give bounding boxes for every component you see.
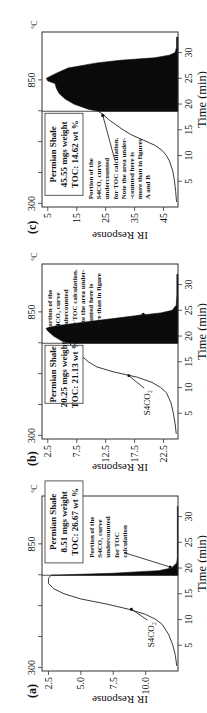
temp-tick-label: 300 xyxy=(26,196,37,211)
x-tick-label: 25 xyxy=(183,537,194,547)
x-tick-label: 25 xyxy=(183,73,194,83)
undercounted-area xyxy=(46,37,178,111)
annotation-line: for TOC calculation. xyxy=(71,269,79,331)
panel-label: (a) xyxy=(25,684,39,698)
temp-tick-label: 850 xyxy=(26,536,37,551)
arrow-head xyxy=(101,114,104,117)
x-tick-label: 20 xyxy=(183,331,194,341)
panel-b: 51015202530Time (min)22.517.512.57.52.5I… xyxy=(0,232,207,472)
y-tick-label: 25 xyxy=(100,213,111,223)
info-box-line: 45.55 mgs weight xyxy=(59,121,69,187)
annotation-line: undercounted xyxy=(62,289,70,331)
info-box-line: Permian Shale xyxy=(48,126,58,182)
y-tick-label: 7.5 xyxy=(108,677,119,690)
annotation-line: S4CO₂ curve xyxy=(54,292,62,330)
y-tick-label: 2.5 xyxy=(43,677,54,690)
x-axis-title: Time (min) xyxy=(195,303,207,360)
info-box-line: TOC: 21.13 wt % xyxy=(70,340,80,408)
annotation-line: A xyxy=(103,326,111,331)
s4co2-curve xyxy=(69,343,176,434)
temp-unit: °C xyxy=(30,484,39,493)
x-tick-label: 30 xyxy=(183,48,194,58)
info-box-line: Permian Shale xyxy=(48,346,58,402)
y-tick-label: 12.5 xyxy=(100,445,111,463)
annotation-line: more than in figure xyxy=(95,273,103,331)
info-box-line: TOC: 14.62 wt % xyxy=(70,120,80,188)
y-axis-title: IR Response xyxy=(92,694,148,704)
x-tick-label: 10 xyxy=(183,383,194,393)
annotation-line: more than in figures xyxy=(136,138,144,199)
x-tick-label: 20 xyxy=(183,99,194,109)
s4co2-curve xyxy=(48,575,176,666)
y-tick-label: 15 xyxy=(71,213,82,223)
panel-c-rotated: 51015202530Time (min)453525155IR Respons… xyxy=(0,0,207,240)
annotation-line: -counted here is xyxy=(128,152,136,200)
annotation-line: S4CO₂ curve xyxy=(95,161,103,199)
chart-b: 51015202530Time (min)22.517.512.57.52.5I… xyxy=(0,232,207,472)
y-tick-label: 45 xyxy=(158,213,169,223)
y-tick-label: 35 xyxy=(129,213,140,223)
annotation-line: for TOC xyxy=(113,532,121,557)
annotation-line: S4CO₂ curve xyxy=(96,519,104,557)
x-axis-title: Time (min) xyxy=(195,535,207,592)
x-tick-label: 15 xyxy=(183,589,194,599)
y-tick-label: 5 xyxy=(42,213,53,218)
x-tick-label: 30 xyxy=(183,512,194,522)
arrow-head xyxy=(127,374,130,377)
arrow-head xyxy=(142,313,145,316)
curve-label: S4CO₂ xyxy=(142,390,152,415)
panel-a-rotated: 51015202530Time (min)10.07.55.02.5IR Res… xyxy=(0,464,207,704)
annotation-line: undercounted xyxy=(103,158,111,200)
temp-tick-label: 850 xyxy=(26,72,37,87)
x-tick-label: 5 xyxy=(183,179,194,184)
y-tick-label: 5.0 xyxy=(75,677,86,690)
annotation-line: Portion of the xyxy=(87,158,95,199)
temp-tick-label: 300 xyxy=(26,660,37,675)
annotation-line: Portion of the xyxy=(88,517,96,558)
info-box-line: Permian Shale xyxy=(48,494,58,550)
chart-c: 51015202530Time (min)453525155IR Respons… xyxy=(0,0,207,240)
x-tick-label: 15 xyxy=(183,357,194,367)
info-box-line: 8.51 mgs weight xyxy=(59,491,69,552)
arrow-head xyxy=(169,565,172,568)
info-box-line: 20.25 mgs weight xyxy=(59,341,69,407)
curve-label: S4CO₂ xyxy=(146,622,156,647)
x-tick-label: 10 xyxy=(183,615,194,625)
x-tick-label: 5 xyxy=(183,411,194,416)
temp-unit: °C xyxy=(30,20,39,29)
x-tick-label: 15 xyxy=(183,125,194,135)
annotation-line: Note the area under- xyxy=(79,269,87,331)
arrow-head xyxy=(130,608,133,611)
y-tick-label: 17.5 xyxy=(129,445,140,463)
x-tick-label: 30 xyxy=(183,280,194,290)
temp-unit: °C xyxy=(30,252,39,261)
panel-c: 51015202530Time (min)453525155IR Respons… xyxy=(0,0,207,240)
x-tick-label: 5 xyxy=(183,643,194,648)
curve-label-arrow xyxy=(129,376,144,388)
y-tick-label: 2.5 xyxy=(42,445,53,458)
x-tick-label: 20 xyxy=(183,563,194,573)
panel-a: 51015202530Time (min)10.07.55.02.5IR Res… xyxy=(0,464,207,704)
temp-tick-label: 850 xyxy=(26,304,37,319)
chart-a: 51015202530Time (min)10.07.55.02.5IR Res… xyxy=(0,464,207,704)
annotation-line: Portion of the xyxy=(46,290,54,331)
panel-b-rotated: 51015202530Time (min)22.517.512.57.52.5I… xyxy=(0,232,207,472)
annotation-line: A and B xyxy=(144,175,152,199)
annotation-arrow xyxy=(124,553,170,567)
annotation-line: for TOC calculation. xyxy=(112,137,120,199)
temp-tick-label: 300 xyxy=(26,428,37,443)
annotation-line: undercounted xyxy=(104,516,112,558)
y-tick-label: 22.5 xyxy=(158,445,169,463)
info-box-line: TOC: 26.67 wt % xyxy=(70,488,80,556)
x-tick-label: 10 xyxy=(183,151,194,161)
y-tick-label: 7.5 xyxy=(71,445,82,458)
y-tick-label: 10.0 xyxy=(140,677,151,695)
annotation-line: Note the area under- xyxy=(120,137,128,199)
x-tick-label: 25 xyxy=(183,305,194,315)
x-axis-title: Time (min) xyxy=(195,71,207,128)
annotation-line: -counted here is xyxy=(87,283,95,331)
